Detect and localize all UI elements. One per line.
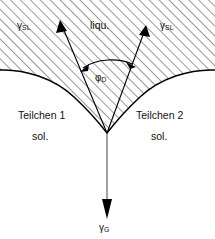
gamma-g-subscript: G <box>104 226 109 233</box>
liquid-region-label: liqu. <box>90 20 109 31</box>
particle-right-phase-label: sol. <box>151 131 167 142</box>
dihedral-angle-label: φD <box>95 73 107 84</box>
particle-right-label: Teilchen 2 <box>136 110 183 121</box>
gamma-sl-left-label: γSL <box>17 21 31 32</box>
gamma-g-label: γG <box>99 223 109 234</box>
gamma-sl-right-subscript: SL <box>165 24 174 31</box>
phi-subscript: D <box>101 76 106 83</box>
gamma-sl-left-subscript: SL <box>22 24 31 31</box>
particle-left-label: Teilchen 1 <box>18 110 65 121</box>
dihedral-angle-figure: γSL γSL liqu. φD Teilchen 1 sol. Teilche… <box>0 0 215 239</box>
particle-left-phase-label: sol. <box>32 131 48 142</box>
gamma-sl-right-label: γSL <box>160 21 174 32</box>
gamma-g-vector <box>102 133 112 219</box>
